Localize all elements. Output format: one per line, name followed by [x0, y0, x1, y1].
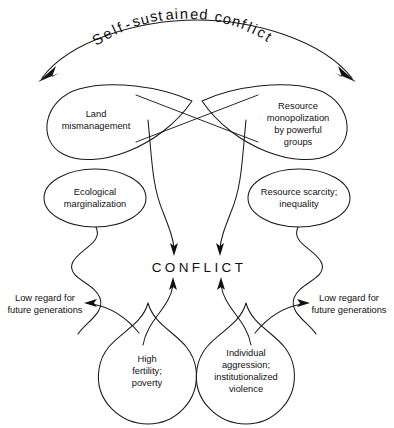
flow-to-low-regard-right	[255, 304, 302, 333]
svg-text:High: High	[137, 354, 156, 364]
low-regard-left-arrow-icon	[84, 299, 97, 307]
svg-text:Ecological: Ecological	[74, 187, 116, 197]
individual-aggression-label: Individual aggression; institutionalized…	[214, 348, 278, 394]
svg-text:Low regard for: Low regard for	[15, 293, 75, 303]
svg-text:Individual: Individual	[226, 348, 265, 358]
resource-scarcity-label: Resource scarcity; inequality	[261, 187, 337, 209]
conflict-diagram: Self-sustainedconflict	[0, 0, 394, 428]
low-regard-left-label: Low regard for future generations	[8, 293, 83, 315]
svg-text:future generations: future generations	[8, 305, 83, 315]
title-char-8: t	[157, 7, 165, 24]
flow-bottom-left-to-conflict	[143, 285, 173, 345]
svg-text:groups: groups	[284, 137, 313, 147]
svg-text:Resource scarcity;: Resource scarcity;	[261, 187, 337, 197]
title-arrow-left-icon	[38, 66, 59, 82]
resource-scarcity-shape	[248, 169, 350, 227]
low-regard-right-label: Low regard for future generations	[312, 293, 387, 315]
title-text-group: Self-sustainedconflict	[89, 6, 275, 49]
svg-text:poverty: poverty	[132, 378, 163, 388]
ecological-marginalization-label: Ecological marginalization	[64, 187, 127, 209]
svg-text:future generations: future generations	[312, 305, 387, 315]
title-char-13: d	[199, 6, 210, 23]
s-curve-right	[293, 227, 322, 334]
ecological-marginalization-shape	[44, 169, 146, 227]
svg-text:Low regard for: Low regard for	[319, 293, 379, 303]
title-arrow-right-icon	[335, 66, 356, 82]
svg-text:monopolization: monopolization	[267, 113, 330, 123]
svg-text:Resource: Resource	[278, 101, 318, 111]
land-mismanagement-label: Land mismanagement	[62, 109, 131, 131]
flow-bottom-right-to-conflict	[221, 285, 251, 345]
svg-text:fertility;: fertility;	[132, 366, 161, 376]
svg-text:aggression;: aggression;	[222, 360, 270, 370]
svg-text:violence: violence	[229, 384, 263, 394]
diagram-canvas: Self-sustainedconflict	[0, 0, 394, 428]
svg-text:Land: Land	[86, 109, 107, 119]
svg-text:mismanagement: mismanagement	[62, 121, 131, 131]
low-regard-right-arrow-icon	[297, 299, 310, 307]
conflict-center-label: CONFLICT	[152, 260, 247, 275]
svg-text:by powerful: by powerful	[274, 125, 322, 135]
svg-text:institutionalized: institutionalized	[214, 372, 278, 382]
svg-text:marginalization: marginalization	[64, 199, 127, 209]
title-arc-group: Self-sustainedconflict	[38, 6, 356, 82]
high-fertility-poverty-label: High fertility; poverty	[132, 354, 163, 388]
resource-monopolization-label: Resource monopolization by powerful grou…	[267, 101, 330, 147]
flow-to-low-regard-left	[92, 304, 139, 333]
title-char-11: n	[180, 6, 190, 22]
svg-text:inequality: inequality	[279, 199, 319, 209]
title-arc-path	[42, 20, 352, 78]
s-curve-left	[72, 227, 101, 334]
